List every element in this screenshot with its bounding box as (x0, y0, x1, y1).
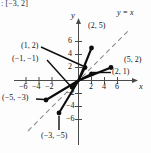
x-tick-label-6: 6 (115, 83, 119, 91)
y-tick-label-neg2: −2 (66, 89, 75, 97)
y-tick-label-neg6: −6 (66, 115, 75, 123)
point-label-1-2: (1, 2) (21, 42, 38, 50)
point-label-neg1-neg1: (−1, −1) (12, 55, 38, 63)
leader-1-2 (41, 47, 83, 66)
y-equals-x-label: y = x (117, 9, 134, 17)
x-axis-label: x (139, 82, 143, 91)
x-tick-label-4: 4 (102, 83, 106, 91)
point-1-2 (83, 65, 88, 70)
point-label-neg5-neg3: (−5, −3) (2, 94, 28, 102)
point-label-neg3-neg5: (−3, −5) (41, 132, 67, 140)
graph-figure: : [−3, 2] (0, 0, 151, 153)
y-tick-label-neg4: −4 (66, 102, 75, 110)
x-tick-label-neg2: −2 (45, 83, 54, 91)
point-neg5-neg3 (44, 98, 49, 103)
point-label-2-5: (2, 5) (88, 22, 105, 30)
x-tick-label-neg6: −6 (19, 83, 28, 91)
point-2-5 (89, 46, 94, 51)
coordinate-plane-svg (0, 0, 151, 153)
point-neg3-neg5 (57, 111, 62, 116)
x-tick-label-neg4: −4 (32, 83, 41, 91)
y-axis-label: y (71, 11, 75, 20)
leader-neg5-neg3 (36, 99, 44, 100)
y-tick-label-4: 4 (68, 50, 72, 58)
y-tick-label-2: 2 (68, 63, 72, 71)
y-tick-label-6: 6 (68, 37, 72, 45)
point-label-2-1: (2, 1) (112, 68, 129, 76)
x-tick-label-2: 2 (89, 83, 93, 91)
point-label-5-2: (5, 2) (124, 56, 141, 64)
